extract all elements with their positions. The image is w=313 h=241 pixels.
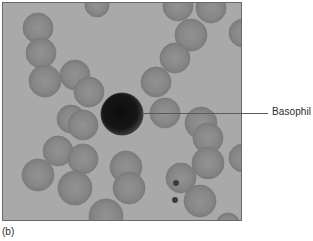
basophil-cell: [101, 93, 143, 135]
red-blood-cell: [22, 159, 54, 191]
cell-layer: [3, 3, 242, 221]
red-blood-cell: [184, 185, 216, 217]
basophil-label: Basophil: [272, 106, 311, 117]
platelet: [172, 197, 178, 203]
red-blood-cell: [58, 171, 92, 205]
annotation-leader-line: [142, 113, 268, 114]
red-blood-cell: [160, 43, 190, 73]
red-blood-cell: [74, 77, 104, 107]
red-blood-cell: [196, 3, 226, 23]
red-blood-cell: [229, 144, 242, 172]
red-blood-cell: [163, 3, 193, 21]
red-blood-cell: [29, 65, 61, 97]
red-blood-cell: [216, 213, 240, 221]
red-blood-cell: [141, 67, 171, 97]
red-blood-cell: [229, 19, 242, 47]
red-blood-cell: [192, 147, 224, 179]
panel-label: (b): [2, 226, 14, 237]
basophil: [101, 93, 143, 135]
red-blood-cell: [89, 199, 123, 221]
platelet: [173, 180, 179, 186]
red-blood-cell: [68, 110, 98, 140]
red-blood-cell: [113, 172, 145, 204]
red-blood-cell: [85, 3, 109, 17]
red-blood-cell: [26, 38, 56, 68]
blood-smear-micrograph: [2, 2, 242, 221]
red-blood-cell: [68, 144, 98, 174]
